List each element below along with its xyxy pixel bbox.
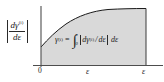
x-tick-epsilon: ε xyxy=(86,68,89,76)
x-tick-epsilon-max: ε xyxy=(142,68,145,76)
abs-bar-left xyxy=(7,20,8,43)
y-axis-label-numerator: dγ(i) xyxy=(10,20,25,31)
x-tick-origin: 0 xyxy=(38,67,42,75)
figure-container: dγ(i) dε γ(i) = ∫ ε 0 dγ(i) / dε dε 0 ε … xyxy=(0,0,164,82)
y-axis-numerator-text: dγ xyxy=(11,20,19,30)
abs-bar-right xyxy=(27,20,28,43)
integrand-denominator: dε xyxy=(98,36,105,44)
integral-equation-annotation: γ(i) = ∫ ε 0 dγ(i) / dε dε xyxy=(55,33,118,46)
integrand-absolute-value: dγ(i) / dε xyxy=(79,35,108,45)
abs-bar-inline-left xyxy=(80,35,81,45)
y-axis-label: dγ(i) dε xyxy=(5,20,29,43)
differential-term: dε xyxy=(111,36,118,44)
y-axis-label-fraction: dγ(i) dε xyxy=(9,20,25,43)
abs-bar-inline-right xyxy=(107,35,108,45)
integral-upper-limit: ε xyxy=(76,33,78,38)
y-axis-numerator-index: (i) xyxy=(19,20,24,25)
integral-limits: ε 0 xyxy=(76,33,78,46)
equals-sign: = xyxy=(65,36,70,44)
integrand-slash: / xyxy=(95,36,97,44)
integral-lower-limit: 0 xyxy=(76,42,78,47)
y-axis-label-denominator: dε xyxy=(12,32,22,43)
integral-operator: ∫ ε 0 xyxy=(72,33,77,46)
integrand-numerator: dγ xyxy=(82,36,89,44)
